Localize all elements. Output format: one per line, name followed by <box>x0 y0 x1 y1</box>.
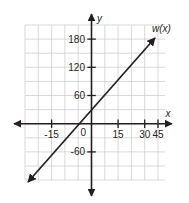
graph-svg: 180 120 60 -60 -15 15 30 45 0 y x w(x) <box>0 0 189 203</box>
x-tick-label-neg15: -15 <box>44 129 59 140</box>
x-tick-label-15: 15 <box>113 129 125 140</box>
x-tick-label-30: 30 <box>139 129 151 140</box>
x-tick-label-45: 45 <box>152 129 164 140</box>
coordinate-graph-figure: 180 120 60 -60 -15 15 30 45 0 y x w(x) <box>0 0 189 203</box>
y-axis-label: y <box>96 13 103 24</box>
y-tick-label-180: 180 <box>68 34 85 45</box>
function-label-wx: w(x) <box>152 23 171 34</box>
grid-lines <box>25 25 165 180</box>
y-tick-label-60: 60 <box>74 90 86 101</box>
origin-label: 0 <box>80 127 86 138</box>
x-axis-label: x <box>165 108 172 119</box>
y-tick-label-120: 120 <box>68 62 85 73</box>
y-tick-label-neg60: -60 <box>71 146 86 157</box>
